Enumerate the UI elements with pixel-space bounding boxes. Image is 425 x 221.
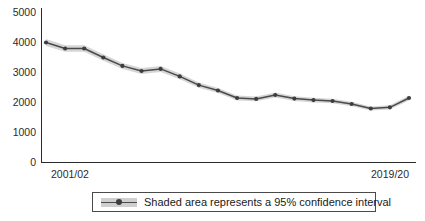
data-point [273,93,277,97]
data-point [159,67,163,71]
data-point [82,46,86,50]
data-point [369,106,373,110]
legend-swatch-icon [101,197,137,208]
data-point [292,97,296,101]
x-tick-label-last: 2019/20 [371,168,409,180]
y-tick-label-0: 0 [30,156,36,168]
data-point [311,98,315,102]
y-tick-label-4000: 4000 [13,36,37,48]
y-tick-label-1000: 1000 [13,126,37,138]
data-point [197,83,201,87]
data-point [63,46,67,50]
data-point [330,99,334,103]
plot-area: 5000 4000 3000 2000 1000 0 2001/02 2019/… [0,0,425,185]
x-tick-label-first: 2001/02 [51,168,89,180]
data-point [216,88,220,92]
data-point [44,40,48,44]
legend-label: Shaded area represents a 95% confidence … [144,197,391,208]
series-markers [44,40,411,110]
y-tick-label-3000: 3000 [13,66,37,78]
data-point [235,96,239,100]
y-axis-tick-labels: 5000 4000 3000 2000 1000 0 [13,6,37,168]
line-chart: 5000 4000 3000 2000 1000 0 2001/02 2019/… [0,0,425,221]
confidence-interval-band [46,39,409,111]
data-point [101,55,105,59]
data-point [120,64,124,68]
data-point [388,105,392,109]
y-tick-label-5000: 5000 [13,6,37,18]
data-point [407,96,411,100]
series-line [46,43,409,109]
data-point [350,102,354,106]
data-point [139,69,143,73]
legend: Shaded area represents a 95% confidence … [92,192,376,212]
y-tick-label-2000: 2000 [13,96,37,108]
legend-marker-icon [116,199,122,205]
x-axis-tick-labels: 2001/02 2019/20 [51,168,409,180]
data-point [254,97,258,101]
data-point [178,74,182,78]
